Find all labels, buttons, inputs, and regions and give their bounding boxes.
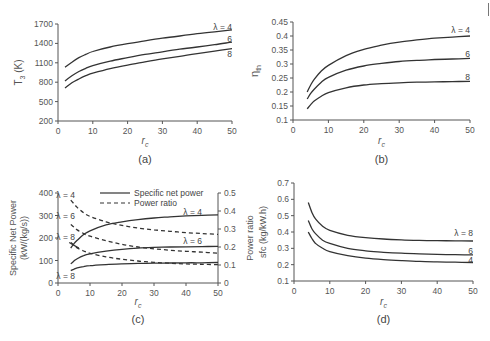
series-group: λ = 864	[308, 203, 473, 265]
y-tick-label: 0.2	[276, 87, 288, 97]
x-tick-label: 0	[56, 126, 61, 136]
y-tick-label: 0.15	[271, 101, 288, 111]
series-label: λ = 4	[213, 22, 232, 32]
x-tick-label: 20	[361, 286, 371, 296]
y2-tick-label: 0.2	[224, 242, 236, 252]
y-tick-label: 0.4	[276, 31, 288, 41]
x-axis-label: rc	[380, 296, 387, 309]
x-tick-label: 40	[432, 286, 442, 296]
y-tick-label: 0.6	[277, 194, 289, 204]
x-tick-label: 10	[324, 125, 334, 135]
x-tick-label: 50	[213, 288, 223, 298]
x-tick-label: 30	[394, 125, 404, 135]
x-tick-label: 20	[117, 288, 127, 298]
series-line	[308, 203, 473, 241]
series-label: 6	[227, 34, 232, 44]
series-line	[307, 81, 470, 108]
y-tick-label: 0.45	[271, 17, 288, 27]
chart-panel-a: 01020304050200500800110014001700rcT3 (K)…	[13, 19, 237, 165]
y-tick-label: 1100	[35, 58, 54, 68]
legend: Specific net powerPower ratio	[100, 188, 204, 208]
series-line	[307, 58, 470, 99]
x-tick-label: 30	[397, 286, 407, 296]
series-label: λ = 8	[56, 271, 75, 281]
y-tick-label: 0.5	[277, 211, 289, 221]
y-tick-label: 0.7	[277, 178, 289, 188]
y2-tick-label: 0.3	[224, 224, 236, 234]
y-tick-label: 0.3	[277, 243, 289, 253]
series-group: λ = 468	[307, 25, 470, 109]
series-label: λ = 4	[183, 207, 202, 217]
y-tick-label: 100	[39, 256, 53, 266]
axes: 010203040500.10.150.20.250.30.350.40.45r…	[248, 17, 475, 148]
y-axis-label: T3 (K)	[13, 59, 26, 85]
chart-panel-d: 010203040500.10.20.30.40.50.60.7rcsfc (k…	[258, 178, 478, 325]
y-axis-label: sfc (kg/kW.h)	[258, 206, 268, 258]
y2-tick-label: 0.4	[224, 206, 236, 216]
x-tick-label: 50	[465, 125, 475, 135]
chart-panel-c: 01020304050010020030040000.10.20.30.40.5…	[8, 188, 255, 325]
x-tick-label: 20	[123, 126, 133, 136]
panel-label: (a)	[138, 153, 151, 165]
panel-label: (b)	[375, 153, 388, 165]
page-edge-mark	[488, 3, 489, 16]
series-label: λ = 6	[56, 211, 75, 221]
panel-label: (c)	[132, 313, 145, 325]
series-label: λ = 4	[451, 25, 470, 35]
y-tick-label: 0.1	[276, 115, 288, 125]
y-tick-label: 0.3	[276, 59, 288, 69]
y-tick-label: 200	[39, 116, 53, 126]
y-tick-label: 0.4	[277, 227, 289, 237]
series-line	[65, 49, 232, 88]
y-tick-label: 0.25	[271, 73, 288, 83]
y2-axis-label: Power ratio	[245, 215, 255, 261]
y-tick-label: 800	[39, 77, 53, 87]
y2-tick-label: 0.1	[224, 260, 236, 270]
panel-label: (d)	[377, 313, 390, 325]
y-tick-label: 400	[39, 188, 53, 198]
x-tick-label: 10	[85, 288, 95, 298]
y-tick-label: 300	[39, 211, 53, 221]
series-label: 6	[465, 49, 470, 59]
x-tick-label: 10	[88, 126, 98, 136]
series-label: λ = 4	[56, 190, 75, 200]
x-tick-label: 40	[192, 126, 202, 136]
y-tick-label: 0.2	[277, 260, 289, 270]
y-tick-label: 0	[48, 278, 53, 288]
x-tick-label: 0	[56, 288, 61, 298]
y-axis-label-units: (kW/(kg/s))	[19, 216, 29, 260]
y-tick-label: 1700	[34, 19, 53, 29]
x-tick-label: 0	[291, 125, 296, 135]
x-tick-label: 20	[359, 125, 369, 135]
axes: 010203040500.10.20.30.40.50.60.7rcsfc (k…	[258, 178, 478, 309]
y-axis-label: ηth	[248, 65, 262, 77]
figure-canvas: 01020304050200500800110014001700rcT3 (K)…	[0, 0, 490, 341]
x-tick-label: 40	[181, 288, 191, 298]
y2-tick-label: 0	[224, 278, 229, 288]
series-group: λ = 468	[65, 22, 232, 88]
chart-panel-b: 010203040500.10.150.20.250.30.350.40.45r…	[248, 17, 475, 165]
x-tick-label: 30	[158, 126, 168, 136]
y-axis-label: Specific Net Power	[8, 200, 18, 276]
legend-label: Specific net power	[134, 188, 204, 198]
x-tick-label: 10	[325, 286, 335, 296]
y-tick-label: 0.1	[277, 276, 289, 286]
x-axis-label: rc	[135, 296, 142, 309]
x-axis-label: rc	[378, 135, 385, 148]
x-tick-label: 50	[227, 126, 237, 136]
legend-label: Power ratio	[134, 198, 177, 208]
x-tick-label: 0	[292, 286, 297, 296]
y-tick-label: 0.35	[271, 45, 288, 55]
y-tick-label: 500	[39, 97, 53, 107]
series-label: λ = 8	[454, 228, 473, 238]
axes: 01020304050200500800110014001700rcT3 (K)	[13, 19, 237, 148]
series-label: λ = 8	[56, 232, 75, 242]
x-axis-label: rc	[142, 135, 149, 148]
x-tick-label: 30	[149, 288, 159, 298]
series-label: 8	[465, 72, 470, 82]
series-label: 8	[227, 49, 232, 59]
y-tick-label: 1400	[34, 38, 53, 48]
x-tick-label: 50	[468, 286, 478, 296]
x-tick-label: 40	[430, 125, 440, 135]
series-label: 4	[468, 255, 473, 265]
